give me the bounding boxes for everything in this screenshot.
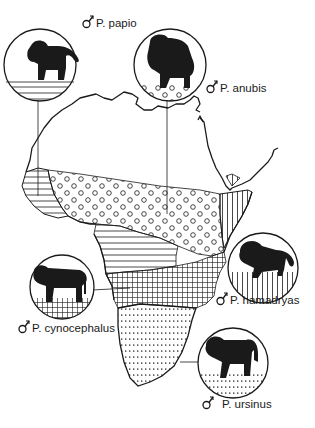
male-symbol-icon bbox=[18, 320, 30, 334]
label-p-anubis: P. anubis bbox=[206, 80, 266, 94]
region-p-hamadryas-arabia bbox=[226, 174, 240, 186]
species-name: P. cynocephalus bbox=[32, 322, 115, 334]
inset-p-cynocephalus bbox=[28, 255, 98, 322]
species-name: P. anubis bbox=[220, 82, 266, 94]
inset-p-ursinus bbox=[198, 328, 270, 400]
species-name: P. hamadryas bbox=[230, 294, 299, 306]
inset-p-papio bbox=[0, 29, 80, 102]
label-p-papio: P. papio bbox=[82, 15, 137, 29]
inset-p-anubis bbox=[130, 29, 210, 105]
species-name: P. papio bbox=[96, 17, 137, 29]
male-symbol-icon bbox=[216, 292, 228, 306]
species-name: P. ursinus bbox=[222, 398, 272, 410]
male-symbol-icon bbox=[82, 15, 94, 29]
male-symbol-icon bbox=[202, 396, 214, 410]
label-p-hamadryas: P. hamadryas bbox=[216, 292, 299, 306]
region-p-ursinus bbox=[118, 304, 196, 386]
africa-baboon-distribution-map bbox=[0, 0, 315, 428]
label-p-ursinus: P. ursinus bbox=[202, 396, 272, 410]
label-p-cynocephalus: P. cynocephalus bbox=[18, 320, 115, 334]
male-symbol-icon bbox=[206, 80, 218, 94]
